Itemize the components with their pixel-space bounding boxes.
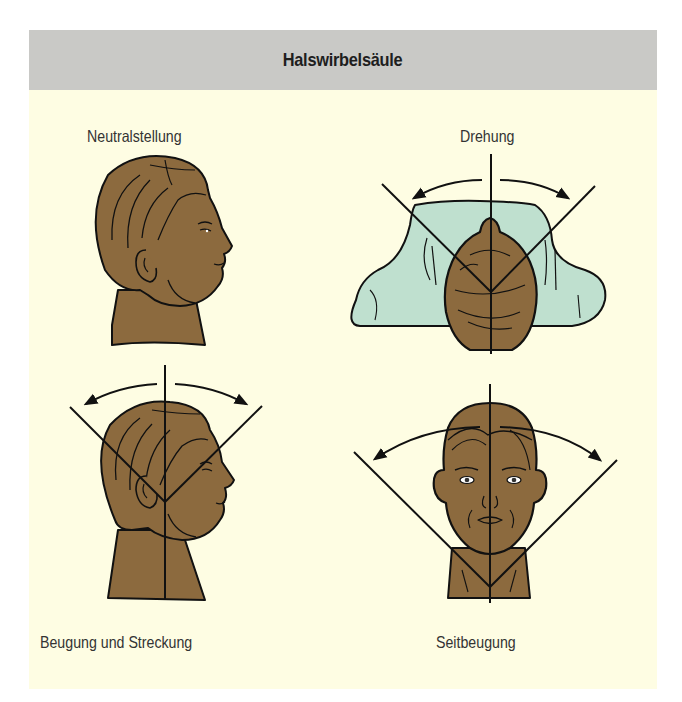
head-flexion-extension-illustration: [70, 365, 262, 600]
head-rotation-illustration: [351, 154, 605, 354]
illustrations: [0, 0, 682, 702]
head-neutral-illustration: [96, 156, 232, 345]
head-lateral-flexion-illustration: [354, 384, 617, 603]
